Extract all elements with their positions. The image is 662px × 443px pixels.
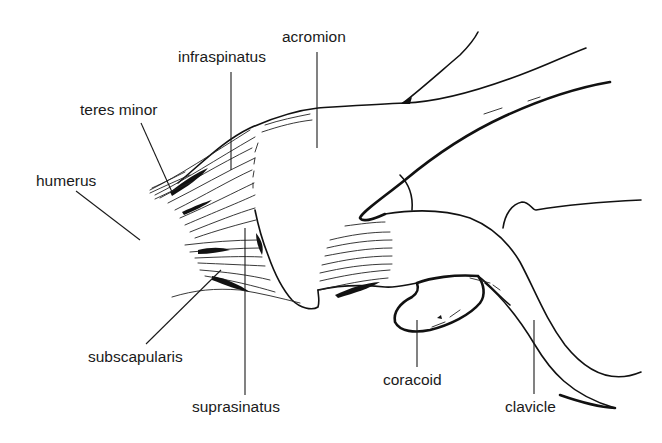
- label-acromion: acromion: [282, 28, 346, 45]
- subscapularis-fibers: [172, 233, 300, 303]
- humerus-leader-line: [76, 191, 140, 240]
- label-suprasinatus: suprasinatus: [192, 398, 280, 415]
- label-subscapularis: subscapularis: [88, 348, 183, 365]
- subscapularis-leader-line: [146, 270, 221, 344]
- label-teres-minor: teres minor: [80, 101, 158, 118]
- label-humerus: humerus: [36, 172, 97, 189]
- label-infraspinatus: infraspinatus: [178, 48, 266, 65]
- shoulder-anatomy-diagram: acromion infraspinatus teres minor humer…: [0, 0, 662, 443]
- label-coracoid: coracoid: [383, 371, 442, 388]
- label-clavicle: clavicle: [505, 398, 556, 415]
- teres-minor-leader-line: [141, 123, 172, 192]
- humeral-head-outline: [253, 143, 319, 309]
